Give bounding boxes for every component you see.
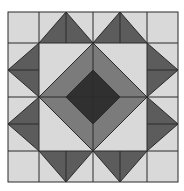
quilt-block [0,0,184,191]
